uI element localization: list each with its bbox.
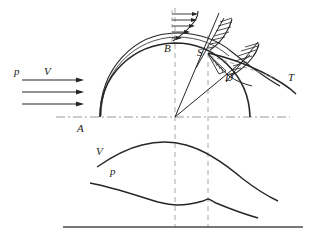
radial-line-to-s — [175, 13, 219, 117]
velocity-profile-at-s — [208, 18, 232, 50]
label-graph-velocity: V — [96, 146, 103, 157]
label-point-t: T — [288, 72, 294, 83]
freestream-arrowhead-2 — [76, 90, 84, 95]
label-graph-pressure: p — [110, 166, 116, 177]
profile-s-hatch-3 — [212, 37, 225, 40]
figure-canvas: p V A B S D T V p — [0, 0, 326, 243]
label-point-b: B — [164, 43, 171, 54]
label-freestream-pressure: p — [14, 66, 20, 77]
label-point-a: A — [77, 123, 84, 134]
freestream-arrowhead-3 — [76, 102, 84, 107]
label-point-d: D — [225, 72, 233, 83]
label-point-s: S — [197, 47, 203, 58]
pressure-distribution-curve — [90, 183, 258, 218]
label-freestream-velocity: V — [44, 66, 51, 77]
profile-s-hatch-7 — [220, 18, 232, 22]
freestream-arrow-group — [22, 78, 84, 107]
freestream-arrowhead-1 — [76, 78, 84, 83]
fluid-separation-diagram — [0, 0, 326, 243]
